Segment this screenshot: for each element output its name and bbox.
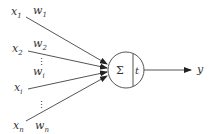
input-label-x2: x2 xyxy=(12,42,23,57)
weight-label-wi: wi xyxy=(33,65,45,80)
weight-label-w2: w2 xyxy=(33,37,47,52)
ellipsis-lower: ⋮ xyxy=(37,100,46,110)
input-label-x1: x1 xyxy=(11,5,22,20)
weight-label-w1: w1 xyxy=(33,4,47,19)
input-label-xi: xi xyxy=(14,81,22,96)
edge-xn xyxy=(26,76,107,121)
neuron-diagram: x1 w1 x2 w2 ⋮ wi xi ⋮ xn wn Σ t y xyxy=(0,0,211,134)
output-label: y xyxy=(196,63,204,76)
weight-label-wn: wn xyxy=(35,119,49,134)
sum-symbol: Σ xyxy=(116,64,124,77)
input-label-xn: xn xyxy=(13,119,24,134)
